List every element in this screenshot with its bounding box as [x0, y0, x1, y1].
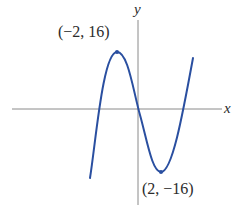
x-axis-label: x	[224, 101, 231, 116]
min-point-marker	[159, 170, 163, 174]
y-axis-label: y	[134, 2, 141, 17]
max-point-marker	[115, 50, 119, 54]
cubic-curve	[90, 52, 193, 178]
max-point-label: (−2, 16)	[58, 24, 110, 40]
plot-area	[0, 0, 239, 211]
min-point-label: (2, −16)	[142, 181, 194, 197]
cubic-function-graph: y x (−2, 16) (2, −16)	[0, 0, 239, 211]
